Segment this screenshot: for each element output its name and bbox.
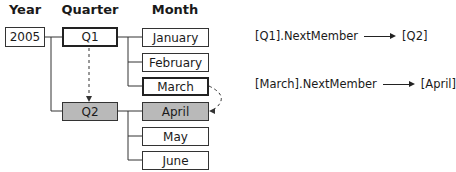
month-node-january: January xyxy=(142,28,209,47)
month-node-may: May xyxy=(142,127,209,146)
month-node-february: February xyxy=(142,53,209,72)
expression-q1-nextmember: [Q1].NextMember [Q2] xyxy=(255,29,427,43)
month-node-june: June xyxy=(142,151,209,170)
quarter-node-q2: Q2 xyxy=(62,102,118,121)
month-node-april: April xyxy=(142,102,209,121)
quarter-node-q1: Q1 xyxy=(62,27,118,47)
arrow-right-icon xyxy=(364,32,396,40)
expression-text: [March].NextMember xyxy=(255,77,377,91)
month-node-march: March xyxy=(142,77,209,96)
expression-text: [Q1].NextMember xyxy=(255,29,358,43)
expression-result: [April] xyxy=(421,77,456,91)
year-node-2005: 2005 xyxy=(5,27,45,47)
expression-march-nextmember: [March].NextMember [April] xyxy=(255,77,456,91)
arrow-right-icon xyxy=(383,80,415,88)
expression-result: [Q2] xyxy=(402,29,427,43)
